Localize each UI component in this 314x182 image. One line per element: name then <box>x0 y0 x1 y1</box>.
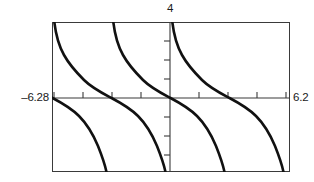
calculator-graph-screen: –6.28 6.2 4 <box>0 0 314 182</box>
plot-canvas <box>52 22 290 172</box>
x-max-label: 6.2 <box>293 92 308 104</box>
curve-branch-3 <box>172 22 283 172</box>
curve-branch-1 <box>54 22 165 172</box>
x-min-label: –6.28 <box>1 92 49 104</box>
y-max-label: 4 <box>156 3 184 15</box>
function-curve <box>52 22 284 172</box>
curve-branch-2 <box>113 22 224 172</box>
